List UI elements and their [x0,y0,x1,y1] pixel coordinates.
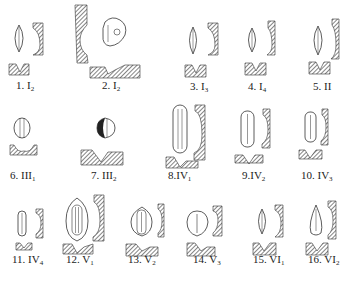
panel-5: 5. II [305,0,353,95]
panel-type: IV [250,169,262,181]
panel-subtype: 2 [113,175,117,183]
panel-subtype: 4 [263,86,267,94]
panel-label: 15. VI1 [253,253,284,267]
panel-number: 16. [308,253,322,265]
stoma-drawing [0,185,60,284]
panel-10: 10. IV3 [295,95,353,185]
panel-number: 10. [301,169,315,181]
panel-subtype: 2 [336,259,340,267]
panel-label: 12. V1 [66,253,94,267]
panel-label: 9.IV2 [242,169,265,183]
panel-subtype: 2 [117,85,121,93]
panel-label: 6. III1 [10,169,36,183]
panel-number: 3. [190,80,198,92]
panel-label: 11. IV4 [12,253,43,267]
panel-type: IV [28,253,40,265]
panel-number: 9. [242,169,250,181]
panel-number: 11. [12,253,25,265]
panel-subtype: 3 [205,86,209,94]
panel-2: 2. I2 [70,0,150,95]
panel-13: 13. V2 [118,185,170,284]
panel-4: 4. I4 [240,0,295,95]
panel-subtype: 2 [152,259,156,267]
panel-9: 9.IV2 [230,95,290,185]
panel-14: 14. V3 [183,185,238,284]
panel-subtype: 1 [32,175,36,183]
stoma-drawing [300,185,353,284]
panel-type: III [21,169,32,181]
panel-number: 2. [102,79,110,91]
panel-label: 10. IV3 [301,169,333,183]
stoma-drawing [180,0,240,95]
panel-3: 3. I3 [180,0,240,95]
panel-type: VI [269,253,281,265]
panel-number: 8. [168,169,176,181]
panel-number: 14. [193,253,207,265]
panel-subtype: 3 [217,259,221,267]
panel-6: 6. III1 [0,95,60,185]
panel-number: 13. [128,253,142,265]
stoma-drawing [118,185,170,284]
panel-15: 15. VI1 [245,185,300,284]
panel-label: 16. VI2 [308,253,339,267]
panel-subtype: 1 [90,259,94,267]
panel-label: 4. I4 [248,80,266,94]
panel-7: 7. III2 [75,95,135,185]
panel-16: 16. VI2 [300,185,353,284]
panel-label: 14. V3 [193,253,221,267]
panel-number: 6. [10,169,18,181]
panel-1: 1. I2 [0,0,60,95]
panel-subtype: 1 [281,259,285,267]
panel-11: 11. IV4 [0,185,60,284]
panel-label: 2. I2 [102,79,120,93]
stoma-drawing [183,185,238,284]
panel-number: 5. [313,80,321,92]
panel-subtype: 3 [329,175,333,183]
stoma-drawing [245,185,300,284]
panel-8: 8.IV1 [160,95,230,185]
panel-subtype: 2 [262,175,266,183]
panel-label: 8.IV1 [168,169,191,183]
panel-number: 12. [66,253,80,265]
panel-12: 12. V1 [60,185,110,284]
panel-label: 5. II [313,80,331,94]
panel-label: 13. V2 [128,253,156,267]
panel-type: II [324,80,331,92]
panel-type: IV [176,169,188,181]
panel-label: 1. I2 [16,79,34,93]
stoma-drawing [60,185,110,284]
panel-number: 4. [248,80,256,92]
panel-number: 15. [253,253,267,265]
panel-subtype: 1 [188,175,192,183]
panel-type: IV [318,169,330,181]
panel-subtype: 4 [40,259,44,267]
panel-label: 3. I3 [190,80,208,94]
panel-type: VI [324,253,336,265]
panel-number: 1. [16,79,24,91]
panel-number: 7. [91,169,99,181]
panel-label: 7. III2 [91,169,117,183]
panel-type: III [102,169,113,181]
panel-subtype: 2 [31,85,35,93]
